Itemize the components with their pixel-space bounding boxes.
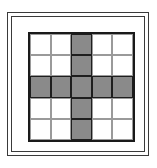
- empty-cell: [112, 98, 133, 119]
- empty-cell: [51, 119, 72, 140]
- shaded-cell: [71, 119, 92, 140]
- empty-cell: [30, 55, 51, 76]
- cross-grid: [28, 32, 135, 142]
- empty-cell: [51, 98, 72, 119]
- empty-cell: [112, 34, 133, 55]
- shaded-cell: [71, 76, 92, 97]
- shaded-cell: [71, 98, 92, 119]
- empty-cell: [92, 55, 113, 76]
- empty-cell: [30, 98, 51, 119]
- shaded-cell: [30, 76, 51, 97]
- shaded-cell: [71, 34, 92, 55]
- empty-cell: [92, 119, 113, 140]
- empty-cell: [92, 34, 113, 55]
- shaded-cell: [71, 55, 92, 76]
- empty-cell: [30, 34, 51, 55]
- empty-cell: [30, 119, 51, 140]
- shaded-cell: [92, 76, 113, 97]
- empty-cell: [51, 34, 72, 55]
- empty-cell: [112, 55, 133, 76]
- empty-cell: [112, 119, 133, 140]
- shaded-cell: [51, 76, 72, 97]
- empty-cell: [51, 55, 72, 76]
- shaded-cell: [112, 76, 133, 97]
- empty-cell: [92, 98, 113, 119]
